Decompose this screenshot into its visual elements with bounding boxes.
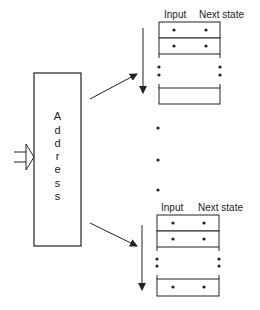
- svg-text:d: d: [54, 137, 60, 149]
- table-row: [157, 231, 219, 247]
- header-input: Input: [161, 202, 183, 213]
- svg-text:s: s: [55, 190, 61, 202]
- header-next-state: Next state: [199, 9, 244, 20]
- svg-text:d: d: [54, 124, 60, 136]
- svg-text:A: A: [54, 110, 62, 122]
- state-table-memory-diagram: A d d r e s s Input Next state Inp: [0, 0, 260, 310]
- table-row: [159, 88, 220, 104]
- header-input: Input: [164, 9, 186, 20]
- pointer-arrow-top: [90, 74, 137, 99]
- table-row: [159, 22, 220, 38]
- memory-group-top: Input Next state: [143, 9, 244, 104]
- svg-text:s: s: [55, 177, 61, 189]
- svg-text:e: e: [54, 163, 60, 175]
- memory-group-bottom: Input Next state: [142, 202, 243, 296]
- table-row: [157, 215, 219, 231]
- table-row: [159, 38, 220, 54]
- svg-text:r: r: [56, 150, 60, 162]
- table-row: [157, 279, 219, 296]
- pointer-arrow-bottom: [90, 223, 137, 246]
- group-ellipsis: [156, 126, 159, 191]
- input-bus-icon: [14, 144, 34, 170]
- header-next-state: Next state: [198, 202, 243, 213]
